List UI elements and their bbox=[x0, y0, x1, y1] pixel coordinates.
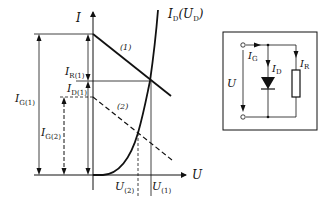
voltage-axis-label: U bbox=[192, 168, 203, 182]
u2-label: U(2) bbox=[115, 180, 134, 195]
resistor-icon bbox=[292, 70, 300, 97]
ir1-dimension-arrow bbox=[86, 34, 91, 81]
circuit-schematic: U IG ID IR bbox=[223, 32, 317, 130]
bottom-terminal bbox=[241, 115, 245, 119]
u1-label: U(1) bbox=[152, 180, 171, 195]
curve-label: ID(UD) bbox=[167, 7, 204, 23]
ig-arrow-icon bbox=[254, 43, 261, 48]
diode-operating-point-diagram: I U ID(UD) (1) (2) IG(1) IG(2) IR(1) ID( bbox=[0, 0, 334, 204]
ir-arrow-icon bbox=[294, 51, 299, 58]
voltage-arrow-icon bbox=[241, 105, 246, 112]
load-line-1 bbox=[93, 34, 171, 96]
circuit-id-label: ID bbox=[271, 63, 282, 76]
id-arrow-icon bbox=[266, 60, 271, 67]
current-axis-label: I bbox=[75, 11, 81, 25]
circuit-voltage-label: U bbox=[227, 77, 237, 90]
ig1-label: IG(1) bbox=[14, 92, 35, 107]
id1-label: ID(1) bbox=[66, 82, 87, 97]
top-terminal bbox=[241, 43, 245, 47]
diode-icon bbox=[261, 77, 275, 89]
load-line-2 bbox=[93, 97, 172, 160]
load-line-2-label: (2) bbox=[117, 102, 128, 111]
diode-characteristic-curve bbox=[93, 10, 158, 175]
ir1-label: IR(1) bbox=[64, 65, 85, 80]
axes bbox=[34, 12, 186, 190]
load-line-1-label: (1) bbox=[120, 43, 131, 52]
circuit-ig-label: IG bbox=[247, 50, 258, 63]
ig1-dimension-arrow bbox=[37, 34, 42, 175]
ig2-label: IG(2) bbox=[40, 126, 61, 141]
ig2-dimension-arrow bbox=[62, 97, 67, 175]
circuit-ir-label: IR bbox=[299, 58, 310, 71]
